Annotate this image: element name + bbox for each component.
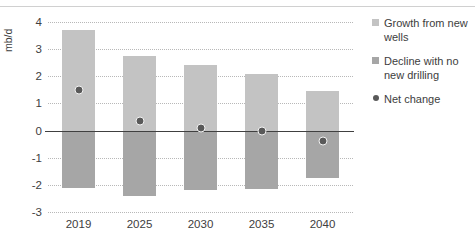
y-axis-tick-label: 0 bbox=[2, 125, 42, 137]
bar-group[interactable] bbox=[123, 22, 156, 212]
x-axis-tick-label: 2030 bbox=[171, 218, 231, 230]
bar-segment-decline[interactable] bbox=[123, 131, 156, 196]
net-change-marker[interactable] bbox=[135, 117, 144, 126]
x-axis-tick-label: 2040 bbox=[293, 218, 353, 230]
legend-item-label: Decline with no new drilling bbox=[384, 54, 472, 82]
legend-item-label: Growth from new wells bbox=[384, 16, 472, 44]
y-axis-tick-label: 1 bbox=[2, 97, 42, 109]
circle-marker-icon bbox=[373, 95, 379, 101]
bar-segment-growth[interactable] bbox=[184, 65, 217, 130]
x-axis-tick-label: 2025 bbox=[110, 218, 170, 230]
chart-legend: Growth from new wells Decline with no ne… bbox=[372, 16, 472, 116]
bar-group[interactable] bbox=[62, 22, 95, 212]
x-axis-tick-label: 2019 bbox=[49, 218, 109, 230]
top-divider bbox=[0, 6, 475, 7]
bar-segment-growth[interactable] bbox=[245, 74, 278, 131]
gridline bbox=[48, 212, 353, 213]
bar-segment-growth[interactable] bbox=[62, 30, 95, 130]
y-axis-tick-label: 2 bbox=[2, 70, 42, 82]
y-axis-tick-label: 3 bbox=[2, 43, 42, 55]
legend-item[interactable]: Net change bbox=[372, 92, 472, 106]
net-change-marker[interactable] bbox=[196, 123, 205, 132]
legend-item[interactable]: Decline with no new drilling bbox=[372, 54, 472, 82]
legend-item-label: Net change bbox=[384, 92, 472, 106]
bar-segment-decline[interactable] bbox=[62, 131, 95, 188]
chart-container: mb/d 43210-1-2-320192025203020352040 Gro… bbox=[0, 0, 475, 239]
y-axis-tick-label: -1 bbox=[2, 152, 42, 164]
bar-group[interactable] bbox=[306, 22, 339, 212]
square-swatch-icon bbox=[372, 19, 379, 26]
bar-segment-decline[interactable] bbox=[184, 131, 217, 191]
square-swatch-icon bbox=[372, 57, 379, 64]
y-axis-tick-label: -3 bbox=[2, 206, 42, 218]
net-change-marker[interactable] bbox=[257, 126, 266, 135]
bar-group[interactable] bbox=[245, 22, 278, 212]
x-axis-tick-label: 2035 bbox=[232, 218, 292, 230]
bar-segment-decline[interactable] bbox=[245, 131, 278, 189]
net-change-marker[interactable] bbox=[74, 85, 83, 94]
y-axis-tick-label: 4 bbox=[2, 16, 42, 28]
bar-group[interactable] bbox=[184, 22, 217, 212]
legend-item[interactable]: Growth from new wells bbox=[372, 16, 472, 44]
net-change-marker[interactable] bbox=[318, 137, 327, 146]
y-axis-tick-label: -2 bbox=[2, 179, 42, 191]
bar-segment-growth[interactable] bbox=[306, 91, 339, 130]
plot-area: 43210-1-2-320192025203020352040 bbox=[48, 22, 353, 212]
